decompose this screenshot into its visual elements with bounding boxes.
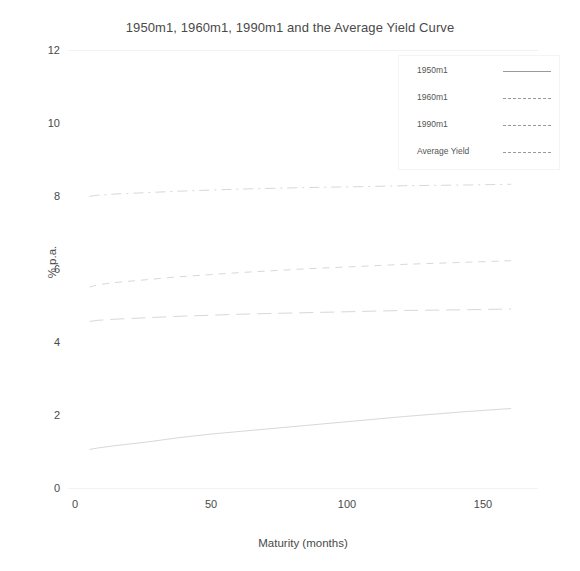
y-tick-label-10: 10: [20, 117, 60, 129]
legend-label-1950m1: 1950m1: [417, 65, 448, 75]
legend-entry-average-yield: Average Yield: [399, 145, 559, 161]
legend-label-1990m1: 1990m1: [417, 119, 448, 129]
y-tick-label-12: 12: [20, 44, 60, 56]
chart-title: 1950m1, 1960m1, 1990m1 and the Average Y…: [0, 20, 580, 35]
legend-label-1960m1: 1960m1: [417, 92, 448, 102]
x-tick-label-0: 0: [45, 498, 105, 510]
legend-entry-1950m1: 1950m1: [399, 64, 559, 80]
y-tick-label-0: 0: [20, 482, 60, 494]
series-line-average-yield: [89, 309, 511, 321]
x-axis-label: Maturity (months): [68, 537, 538, 549]
series-line-1960m1: [89, 261, 511, 287]
legend-entry-1990m1: 1990m1: [399, 118, 559, 134]
y-tick-label-6: 6: [20, 263, 60, 275]
legend-swatch-dashdot-line: [503, 125, 551, 126]
legend-swatch-longdash-line: [503, 152, 551, 153]
y-tick-label-2: 2: [20, 409, 60, 421]
chart-legend: 1950m1 1960m1 1990m1 Average Yield: [398, 55, 560, 170]
series-line-1950m1: [89, 409, 511, 450]
y-tick-label-8: 8: [20, 190, 60, 202]
yield-curve-figure: 1950m1, 1960m1, 1990m1 and the Average Y…: [0, 0, 580, 571]
x-tick-label-150: 150: [453, 498, 513, 510]
legend-swatch-dashed-line: [503, 98, 551, 99]
x-tick-label-100: 100: [317, 498, 377, 510]
y-tick-label-4: 4: [20, 336, 60, 348]
legend-label-average-yield: Average Yield: [417, 146, 469, 156]
legend-swatch-solid-line: [503, 71, 551, 72]
legend-entry-1960m1: 1960m1: [399, 91, 559, 107]
series-line-1990m1: [89, 184, 511, 196]
x-tick-label-50: 50: [181, 498, 241, 510]
